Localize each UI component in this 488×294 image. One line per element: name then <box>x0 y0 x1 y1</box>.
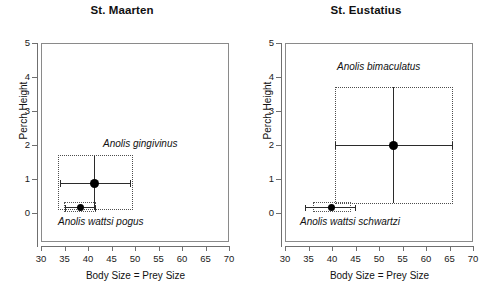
species-label-wattsi-schwartzi: Anolis wattsi schwartzi <box>300 216 400 227</box>
y-axis-line <box>281 43 282 247</box>
x-tick <box>135 246 136 251</box>
x-tick <box>112 246 113 251</box>
x-tick <box>356 246 357 251</box>
data-point-gingivinus <box>90 179 99 188</box>
y-tick-label: 1 <box>258 173 274 184</box>
x-tick-label: 70 <box>458 253 488 264</box>
x-tick-label: 70 <box>214 253 244 264</box>
y-axis-title: Perch Height <box>18 51 29 171</box>
panel-title: St. Maarten <box>0 4 244 16</box>
x-axis-title: Body Size = Prey Size <box>41 270 230 281</box>
x-tick <box>88 246 89 251</box>
y-tick <box>276 43 281 44</box>
x-tick <box>285 246 286 251</box>
x-tick <box>41 246 42 251</box>
species-label-wattsi-pogus: Anolis wattsi pogus <box>58 216 144 227</box>
y-tick <box>276 77 281 78</box>
error-cap-left-gingivinus <box>60 180 61 187</box>
x-tick <box>332 246 333 251</box>
error-cap-left-bimaculatus <box>335 142 336 149</box>
x-tick <box>450 246 451 251</box>
y-tick <box>276 213 281 214</box>
y-tick <box>32 213 37 214</box>
y-tick-label: 1 <box>14 173 30 184</box>
x-tick <box>182 246 183 251</box>
y-tick-label: 0 <box>14 207 30 218</box>
panel-st-maarten: St. Maarten 5 4 3 2 1 0 Perch Height 30 … <box>0 0 244 294</box>
error-cap-right-wattsi-pogus <box>95 205 96 211</box>
x-tick <box>159 246 160 251</box>
y-tick-label: 5 <box>258 37 274 48</box>
y-tick <box>276 111 281 112</box>
x-tick <box>473 246 474 251</box>
x-tick <box>379 246 380 251</box>
y-tick <box>32 145 37 146</box>
x-tick <box>403 246 404 251</box>
y-tick <box>32 179 37 180</box>
y-tick <box>276 179 281 180</box>
y-axis-title: Perch Height <box>262 51 273 171</box>
y-tick-label: 0 <box>258 207 274 218</box>
panel-st-eustatius: St. Eustatius 5 4 3 2 1 0 Perch Height 3… <box>244 0 488 294</box>
x-tick <box>426 246 427 251</box>
figure-anolis-body-size-perch-height: St. Maarten 5 4 3 2 1 0 Perch Height 30 … <box>0 0 488 294</box>
error-cap-right-gingivinus <box>130 180 131 187</box>
error-cap-left-wattsi-pogus <box>65 205 66 211</box>
x-tick <box>229 246 230 251</box>
y-tick <box>32 43 37 44</box>
x-tick <box>65 246 66 251</box>
panel-title: St. Eustatius <box>244 4 488 16</box>
x-tick <box>309 246 310 251</box>
data-point-wattsi-schwartzi <box>328 204 335 211</box>
x-axis-title: Body Size = Prey Size <box>285 270 474 281</box>
x-tick <box>206 246 207 251</box>
error-cap-left-wattsi-schwartzi <box>305 205 306 211</box>
y-tick-label: 5 <box>14 37 30 48</box>
species-label-bimaculatus: Anolis bimaculatus <box>337 61 420 72</box>
data-point-bimaculatus <box>389 141 398 150</box>
y-tick <box>32 77 37 78</box>
data-point-wattsi-pogus <box>77 204 84 211</box>
error-cap-right-wattsi-schwartzi <box>355 205 356 211</box>
y-tick <box>276 145 281 146</box>
error-cap-right-bimaculatus <box>452 142 453 149</box>
y-tick <box>32 111 37 112</box>
species-label-gingivinus: Anolis gingivinus <box>103 138 178 149</box>
y-axis-line <box>37 43 38 247</box>
